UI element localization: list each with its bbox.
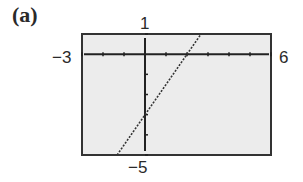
screen-frame xyxy=(82,34,271,155)
graph-screen xyxy=(0,0,303,182)
